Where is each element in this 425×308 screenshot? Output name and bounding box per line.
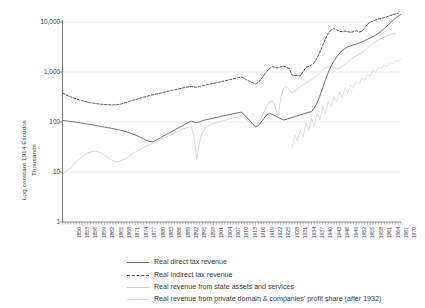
y-axis-tick-label: 1,000 [44, 68, 60, 75]
x-axis-tick-label: 1904 [227, 227, 233, 238]
series-line [63, 13, 399, 105]
y-axis-tick-labels: 1101001,00010,000 [24, 0, 60, 308]
x-axis-tick-label: 1859 [101, 227, 107, 238]
x-axis-tick-label: 1871 [135, 227, 141, 238]
x-axis-tick-label: 1943 [336, 227, 342, 238]
x-axis-tick-label: 1952 [361, 227, 367, 238]
series-line [63, 33, 396, 174]
x-axis-tick-label: 1970 [412, 227, 418, 238]
x-axis-tick-label: 1886 [177, 227, 183, 238]
x-axis-tick-label: 1919 [269, 227, 275, 238]
x-axis-tick-label: 1856 [93, 227, 99, 238]
y-axis-tick-label: 10,000 [40, 18, 60, 25]
x-axis-tick-label: 1916 [261, 227, 267, 238]
legend-item: Real revenue from private domain & compa… [127, 293, 423, 305]
x-axis-tick-label: 1922 [277, 227, 283, 238]
x-axis-tick-label: 1874 [143, 227, 149, 238]
x-axis-tick-label: 1964 [395, 227, 401, 238]
legend-item-label: Real revenue from private domain & compa… [154, 295, 381, 303]
x-axis-tick-label: 1898 [210, 227, 216, 238]
legend-item: Real revenue from state assets and servi… [127, 281, 423, 293]
x-axis-tick-label: 1940 [328, 227, 334, 238]
x-axis-tick-label: 1889 [185, 227, 191, 238]
legend-item-label: Real direct tax revenue [154, 258, 227, 266]
series-line [63, 15, 402, 142]
x-axis-tick-label: 1934 [311, 227, 317, 238]
x-axis-tick-label: 1865 [118, 227, 124, 238]
legend-line-swatch-icon [127, 271, 149, 279]
legend-line-swatch-icon [127, 258, 149, 266]
x-axis-tick-label: 1967 [403, 227, 409, 238]
legend-item: Real direct tax revenue [127, 256, 423, 268]
x-axis-tick-label: 1937 [319, 227, 325, 238]
x-axis-tick-label: 1850 [76, 227, 82, 238]
legend-line-swatch-icon [127, 295, 149, 303]
x-axis-tick-label: 1880 [160, 227, 166, 238]
x-axis-tick-label: 1931 [303, 227, 309, 238]
chart-figure: Log constant 1914 Escudos Thousands 1101… [0, 0, 425, 308]
legend-line-swatch-icon [127, 283, 149, 291]
x-axis-tick-label: 1853 [84, 227, 90, 238]
x-axis-tick-label: 1907 [235, 227, 241, 238]
x-axis-tick-label: 1913 [252, 227, 258, 238]
x-axis-tick-label: 1946 [345, 227, 351, 238]
x-axis-tick-label: 1949 [353, 227, 359, 238]
x-axis-tick-label: 1868 [126, 227, 132, 238]
x-axis-tick-label: 1877 [151, 227, 157, 238]
x-axis-tick-label: 1883 [168, 227, 174, 238]
x-axis-tick-label: 1895 [202, 227, 208, 238]
x-axis-tick-label: 1862 [110, 227, 116, 238]
x-axis-tick-label: 1961 [386, 227, 392, 238]
x-axis-tick-label: 1901 [219, 227, 225, 238]
legend-item-label: Real indirect tax revenue [154, 271, 232, 279]
legend-item-label: Real revenue from state assets and servi… [154, 283, 294, 291]
x-axis-tick-label: 1955 [370, 227, 376, 238]
legend-item: Real indirect tax revenue [127, 268, 423, 280]
x-axis-tick-label: 1892 [193, 227, 199, 238]
y-axis-tick-label: 1 [56, 218, 60, 225]
y-axis-tick-label: 10 [53, 168, 60, 175]
x-axis-tick-label: 1925 [286, 227, 292, 238]
y-axis-tick-label: 100 [49, 118, 60, 125]
chart-legend: Real direct tax revenueReal indirect tax… [127, 256, 423, 306]
x-axis-tick-label: 1928 [294, 227, 300, 238]
x-axis-tick-label: 1910 [244, 227, 250, 238]
x-axis-tick-label: 1958 [378, 227, 384, 238]
